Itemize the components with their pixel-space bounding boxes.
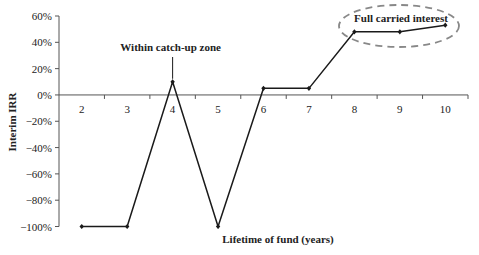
y-tick-label: −100% [20, 221, 52, 233]
y-tick-label: −60% [26, 168, 52, 180]
x-tick-label: 8 [352, 103, 358, 115]
x-tick-label: 7 [306, 103, 312, 115]
y-tick-label: −40% [26, 142, 52, 154]
catch-up-zone-annotation: Within catch-up zone [120, 41, 221, 53]
data-point-marker [261, 86, 265, 91]
y-axis-title: Interim IRR [6, 91, 18, 151]
y-tick-label: 20% [32, 63, 52, 75]
x-tick-label: 4 [170, 103, 176, 115]
data-point-marker [216, 224, 220, 229]
x-axis: 2345678910 [59, 95, 468, 115]
x-tick-label: 5 [215, 103, 221, 115]
x-tick-label: 9 [397, 103, 403, 115]
y-tick-label: −80% [26, 194, 52, 206]
y-tick-label: −20% [26, 115, 52, 127]
data-point-marker [398, 29, 402, 34]
x-tick-label: 6 [261, 103, 267, 115]
x-tick-label: 3 [124, 103, 130, 115]
y-tick-label: 0% [37, 89, 52, 101]
data-series [80, 23, 448, 229]
series-line [82, 25, 446, 226]
full-carried-interest-annotation: Full carried interest [354, 12, 448, 24]
data-point-marker [80, 224, 84, 229]
data-point-marker [125, 224, 129, 229]
y-tick-label: 40% [32, 36, 52, 48]
y-axis: 60%40%20%0%−20%−40%−60%−80%−100% [20, 10, 59, 233]
y-tick-label: 60% [32, 10, 52, 22]
irr-line-chart: 60%40%20%0%−20%−40%−60%−80%−100% 2345678… [0, 0, 479, 255]
x-tick-label: 2 [79, 103, 85, 115]
annotations: Within catch-up zoneFull carried interes… [120, 5, 459, 79]
x-axis-title: Lifetime of fund (years) [222, 233, 334, 246]
data-point-marker [170, 79, 174, 84]
x-tick-label: 10 [440, 103, 452, 115]
